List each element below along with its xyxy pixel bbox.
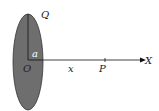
radius-label: a	[32, 48, 38, 59]
point-label: P	[98, 63, 106, 74]
distance-label: x	[68, 63, 74, 74]
charge-label: Q	[41, 9, 49, 20]
origin-label: O	[23, 63, 31, 74]
charged-disc-diagram: Q a O x P X	[0, 0, 159, 111]
axis-label: X	[144, 55, 153, 66]
